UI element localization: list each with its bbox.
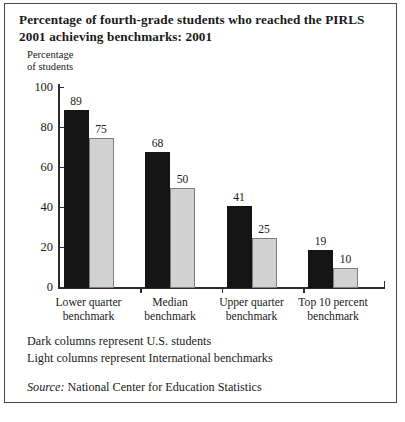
y-tick-label-100: 100	[19, 81, 53, 93]
x-tick-1	[140, 288, 142, 293]
bar-dark-2	[227, 206, 252, 288]
y-tick-100	[58, 87, 64, 89]
y-tick-label-80: 80	[19, 121, 53, 133]
source-note: Source: National Center for Education St…	[27, 381, 262, 394]
bar-dark-0	[64, 110, 89, 288]
source-text: National Center for Education Statistics	[68, 380, 262, 394]
x-tick-3	[303, 288, 305, 293]
bar-value-label: 75	[81, 124, 121, 136]
y-tick-label-60: 60	[19, 161, 53, 173]
bar-value-label: 19	[301, 236, 341, 248]
bar-light-2	[252, 238, 277, 288]
bar-value-label: 50	[163, 174, 203, 186]
x-axis-end-tick	[384, 281, 386, 288]
category-label-3: Top 10 percent benchmark	[279, 296, 387, 323]
legend-note-light: Light columns represent International be…	[27, 352, 273, 365]
bar-value-label: 68	[138, 138, 178, 150]
y-tick-label-40: 40	[19, 201, 53, 213]
y-tick-label-20: 20	[19, 241, 53, 253]
bar-value-label: 41	[219, 192, 259, 204]
figure-frame: Percentage of fourth-grade students who …	[4, 3, 397, 403]
bar-light-0	[89, 138, 114, 288]
y-axis-line	[58, 84, 60, 288]
bar-value-label: 89	[56, 96, 96, 108]
bar-light-3	[333, 268, 358, 288]
x-tick-2	[222, 288, 224, 293]
legend-note-dark: Dark columns represent U.S. students	[27, 335, 211, 348]
bar-value-label: 10	[326, 254, 366, 266]
bar-light-1	[170, 188, 195, 288]
source-label: Source:	[27, 380, 64, 394]
bar-dark-1	[145, 152, 170, 288]
y-tick-label-0: 0	[19, 281, 53, 293]
bar-value-label: 25	[244, 224, 284, 236]
